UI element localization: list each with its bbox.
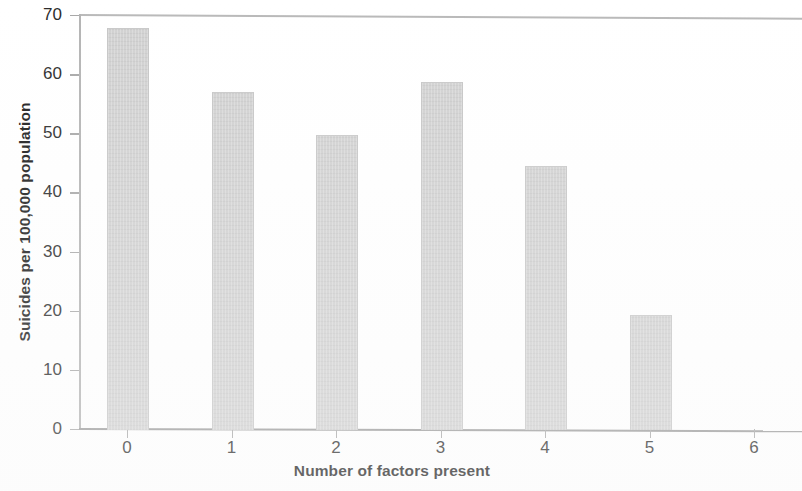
y-axis-tick-label: 50 <box>16 123 62 143</box>
bar <box>212 92 254 430</box>
y-axis-tick <box>70 133 79 134</box>
bar <box>525 166 567 430</box>
y-axis-tick <box>70 429 79 430</box>
y-axis-tick-label: 10 <box>16 360 62 380</box>
x-axis-tick-label: 6 <box>724 438 784 458</box>
x-axis-tick-label: 1 <box>202 438 262 458</box>
bar-chart-figure: Suicides per 100,000 population 01020304… <box>0 0 802 491</box>
x-axis-tick <box>127 429 128 438</box>
y-axis-tick <box>70 311 79 312</box>
x-axis-tick-label: 0 <box>97 438 157 458</box>
x-axis-tick <box>232 429 233 438</box>
bar <box>421 82 463 430</box>
x-axis-tick-label: 5 <box>620 438 680 458</box>
bar <box>107 28 149 430</box>
bar <box>316 135 358 430</box>
x-axis-tick <box>336 429 337 438</box>
y-axis-tick-label: 60 <box>16 64 62 84</box>
y-axis-tick <box>70 192 79 193</box>
x-axis-tick-label: 4 <box>515 438 575 458</box>
plot-top-border <box>79 14 802 19</box>
y-axis-tick <box>70 252 79 253</box>
y-axis-tick <box>70 15 79 16</box>
x-axis-tick <box>441 429 442 438</box>
y-axis-tick-label: 70 <box>16 5 62 25</box>
bar <box>630 315 672 430</box>
x-axis-tick <box>650 429 651 438</box>
x-axis-tick-label: 3 <box>411 438 471 458</box>
y-axis-tick-label: 30 <box>16 242 62 262</box>
x-axis-tick-label: 2 <box>306 438 366 458</box>
y-axis-line <box>79 14 81 430</box>
x-axis-tick <box>754 429 755 438</box>
y-axis-tick <box>70 370 79 371</box>
y-axis-tick-label: 40 <box>16 182 62 202</box>
y-axis-tick <box>70 74 79 75</box>
y-axis-tick-label: 20 <box>16 301 62 321</box>
x-axis-title: Number of factors present <box>79 462 705 480</box>
x-axis-tick <box>545 429 546 438</box>
y-axis-tick-label: 0 <box>16 419 62 439</box>
